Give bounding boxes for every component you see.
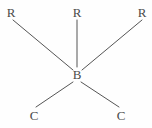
center-atom-boron: B bbox=[73, 68, 82, 81]
bond-b-to-c-bottom-left bbox=[36, 82, 73, 107]
bond-b-to-r-top-right bbox=[82, 20, 142, 70]
r-group-top-right: R bbox=[138, 6, 147, 19]
structure-diagram-canvas: RRRCCB bbox=[0, 0, 152, 128]
carbon-bottom-right: C bbox=[117, 109, 126, 122]
bond-group bbox=[13, 20, 142, 107]
carbon-bottom-left: C bbox=[30, 109, 39, 122]
r-group-top-left: R bbox=[7, 6, 16, 19]
bond-b-to-r-top-left bbox=[13, 20, 73, 70]
r-group-top-center: R bbox=[73, 6, 82, 19]
bond-b-to-c-bottom-right bbox=[81, 82, 119, 107]
